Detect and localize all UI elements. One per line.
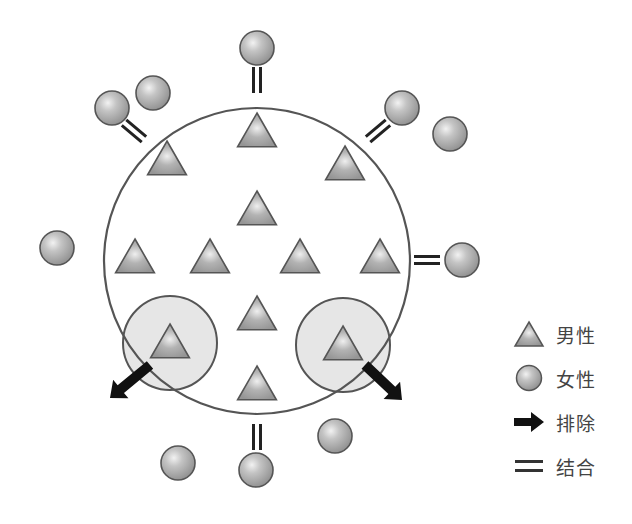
double-bar-icon — [512, 451, 546, 481]
triangle-icon — [512, 319, 546, 349]
legend-label: 女性 — [556, 365, 596, 392]
circle-icon — [512, 363, 546, 393]
female-circle — [95, 91, 129, 125]
men — [116, 113, 400, 400]
legend-label: 排除 — [556, 409, 596, 436]
legend-label: 结合 — [556, 453, 596, 480]
male-triangle — [281, 239, 320, 273]
legend: 男性 女性 排除 结合 — [512, 312, 627, 488]
female-circle — [161, 446, 195, 480]
bond-double-bar — [414, 255, 440, 265]
female-circle — [239, 453, 273, 487]
female-circle — [445, 243, 479, 277]
bond-double-bar — [121, 119, 147, 143]
male-triangle — [238, 296, 277, 330]
bond-double-bar — [252, 424, 262, 450]
male-triangle — [116, 239, 155, 273]
male-triangle — [361, 239, 400, 273]
legend-item-exclusion: 排除 — [512, 400, 627, 444]
arrow-right-icon — [512, 407, 546, 437]
female-circle — [318, 419, 352, 453]
male-triangle — [238, 191, 277, 225]
male-triangle — [238, 113, 277, 147]
bond-double-bar — [365, 119, 391, 143]
legend-item-bond: 结合 — [512, 444, 627, 488]
female-circle — [240, 31, 274, 65]
female-circle — [385, 91, 419, 125]
bond-double-bar — [252, 67, 262, 93]
women — [40, 31, 479, 487]
male-triangle — [191, 239, 230, 273]
legend-label: 男性 — [556, 321, 596, 348]
legend-item-male: 男性 — [512, 312, 627, 356]
female-circle — [433, 117, 467, 151]
male-triangle — [148, 141, 187, 175]
male-triangle — [326, 146, 365, 180]
female-circle — [136, 76, 170, 110]
female-circle — [40, 231, 74, 265]
legend-item-female: 女性 — [512, 356, 627, 400]
male-triangle — [238, 366, 277, 400]
